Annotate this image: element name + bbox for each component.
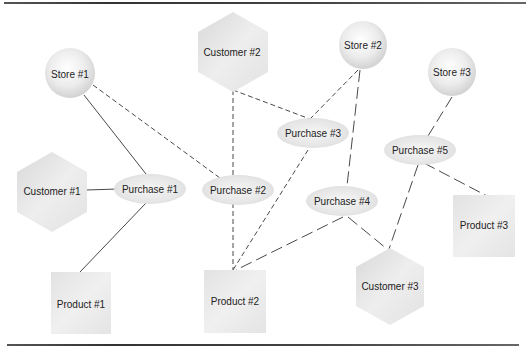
customer3-label: Customer #3 [361,281,418,292]
edge-purchase5-product3 [424,163,487,196]
purchase2-label: Purchase #2 [210,185,266,196]
edge-customer2-purchase3 [233,90,310,119]
product2-label: Product #2 [211,296,259,307]
edge-purchase5-customer3 [389,165,418,249]
edge-store2-purchase4 [347,70,360,186]
edge-customer1-purchase1 [86,189,118,190]
store2-label: Store #2 [344,40,382,51]
store1-label: Store #1 [51,69,89,80]
edge-purchase3-product2 [233,150,308,270]
edge-store3-purchase5 [428,97,452,136]
customer1-label: Customer #1 [23,186,80,197]
product1-label: Product #1 [57,299,105,310]
edge-purchase1-product1 [80,203,146,272]
store3-label: Store #3 [433,67,471,78]
edge-store1-purchase2 [93,85,220,178]
customer2-label: Customer #2 [203,47,260,58]
purchase3-label: Purchase #3 [285,128,341,139]
edge-store1-purchase1 [84,95,146,174]
edge-purchase4-product2 [236,217,343,270]
purchase1-label: Purchase #1 [122,184,178,195]
purchase4-label: Purchase #4 [314,196,370,207]
edge-store2-purchase3 [310,70,358,119]
product3-label: Product #3 [460,220,508,231]
edges [80,70,487,272]
purchase5-label: Purchase #5 [392,145,448,156]
edge-purchase4-customer3 [348,217,387,249]
